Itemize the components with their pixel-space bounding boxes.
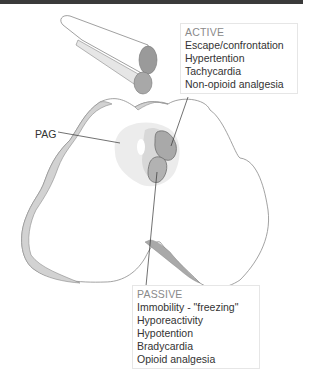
active-item: Tachycardia	[185, 65, 293, 78]
active-response-box: ACTIVE Escape/confrontation Hypertention…	[180, 23, 298, 94]
active-item: Escape/confrontation	[185, 39, 293, 52]
active-item: Non-opioid analgesia	[185, 78, 293, 91]
passive-item: Bradycardia	[137, 340, 255, 353]
active-heading: ACTIVE	[185, 26, 293, 39]
pag-label: PAG	[35, 128, 56, 140]
passive-item: Opioid analgesia	[137, 353, 255, 366]
passive-item: Hypotention	[137, 327, 255, 340]
active-item: Hypertention	[185, 52, 293, 65]
passive-heading: PASSIVE	[137, 288, 255, 301]
aqueduct	[137, 139, 145, 155]
passive-item: Immobility - "freezing"	[137, 301, 255, 314]
tract-stub	[61, 16, 157, 94]
passive-response-box: PASSIVE Immobility - "freezing" Hyporeac…	[132, 285, 260, 369]
passive-item: Hyporeactivity	[137, 314, 255, 327]
